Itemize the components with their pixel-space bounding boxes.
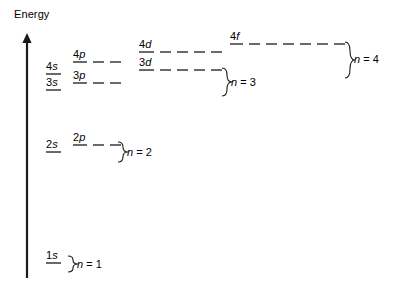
orbital-subshell-2p: p — [79, 131, 85, 143]
orbital-label-4p: 4p — [73, 48, 85, 60]
orbital-label-3p: 3p — [73, 69, 85, 81]
shell-quantum-number-value-n4: = 4 — [360, 53, 379, 65]
shell-quantum-number-value-n2: = 2 — [133, 146, 152, 158]
shell-label-n3: n = 3 — [231, 76, 256, 88]
orbital-label-3s: 3s — [46, 76, 58, 88]
diagram-canvas — [0, 0, 400, 285]
shell-label-n1: n = 1 — [77, 258, 102, 270]
orbital-subshell-4f: f — [236, 30, 239, 42]
orbital-label-3d: 3d — [139, 56, 151, 68]
energy-axis-label: Energy — [14, 8, 49, 20]
orbital-subshell-4d: d — [145, 38, 151, 50]
orbital-subshell-3p: p — [79, 69, 85, 81]
orbital-label-1s: 1s — [46, 249, 58, 261]
orbital-label-2s: 2s — [46, 138, 58, 150]
orbital-subshell-4p: p — [79, 48, 85, 60]
orbital-subshell-4s: s — [52, 60, 58, 72]
orbital-label-4d: 4d — [139, 38, 151, 50]
orbital-label-2p: 2p — [73, 131, 85, 143]
shell-quantum-number-value-n1: = 1 — [83, 258, 102, 270]
orbital-label-4f: 4f — [230, 30, 239, 42]
energy-level-diagram: Energy 1s2s2p3s3p3d4s4p4d4f n = 1n = 2n … — [0, 0, 400, 285]
energy-axis-arrowhead — [22, 33, 31, 43]
orbital-subshell-1s: s — [52, 249, 58, 261]
shell-label-n2: n = 2 — [127, 146, 152, 158]
shell-label-n4: n = 4 — [354, 53, 379, 65]
shell-quantum-number-value-n3: = 3 — [237, 76, 256, 88]
orbital-label-4s: 4s — [46, 60, 58, 72]
orbital-subshell-2s: s — [52, 138, 58, 150]
orbital-subshell-3s: s — [52, 76, 58, 88]
orbital-subshell-3d: d — [145, 56, 151, 68]
